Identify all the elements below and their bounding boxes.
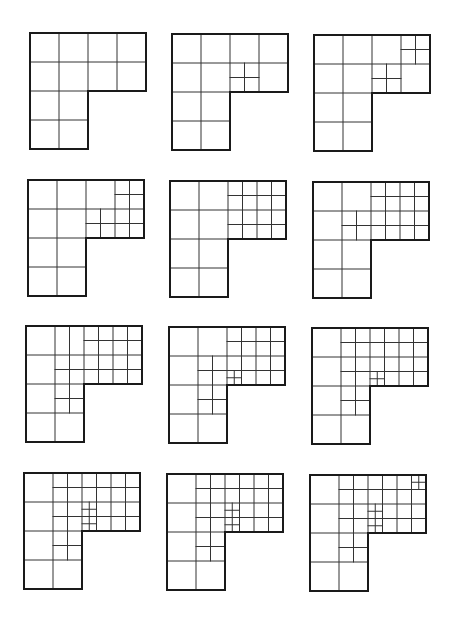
tiling-panel-9 — [311, 327, 429, 447]
tiling-panel-3 — [313, 34, 431, 154]
tiling-panel-10 — [23, 472, 141, 592]
tiling-panel-6 — [312, 181, 430, 301]
tiling-panel-2 — [171, 33, 289, 153]
tiling-panel-11 — [166, 473, 284, 593]
tiling-panel-7 — [25, 325, 143, 445]
tiling-panel-1 — [29, 32, 147, 152]
tiling-panel-5 — [169, 180, 287, 300]
tiling-panel-4 — [27, 179, 145, 299]
tiling-panel-8 — [168, 326, 286, 446]
tiling-panel-12 — [309, 474, 427, 594]
